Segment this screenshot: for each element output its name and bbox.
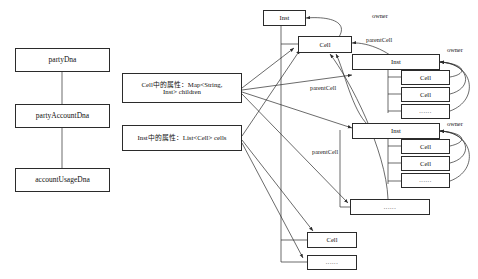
edge-label-parentcell-insta: parentCell (366, 36, 392, 43)
tree-node-inst-a[interactable]: Inst (352, 54, 440, 70)
tree-node-inst-a-cell-more[interactable]: ...... (401, 104, 450, 119)
edge-note-inst-to-root-cell (242, 50, 300, 136)
tree-node-inst-b[interactable]: Inst (352, 123, 440, 139)
edge-label-parentcell-instmore: parentCell (312, 148, 338, 155)
edge-note-inst-to-bottom-more (242, 143, 303, 258)
tree-node-cell-bottom-more[interactable]: ...... (307, 255, 357, 270)
edge-label-owner-root: owner (372, 12, 388, 19)
edge-note-inst-to-bottom-cell (242, 140, 313, 231)
edge-label-owner-instb: owner (447, 120, 463, 127)
tree-node-inst-a-cell-2[interactable]: Cell (401, 87, 450, 102)
tree-node-inst-root[interactable]: Inst (263, 10, 306, 26)
edge-label-owner-insta: owner (447, 46, 463, 53)
dna-node-partydna[interactable]: partyDna (15, 48, 110, 72)
tree-node-inst-a-cell-1[interactable]: Cell (401, 70, 450, 85)
tree-node-inst-b-cell-2[interactable]: Cell (401, 156, 450, 171)
note-inst-attributes[interactable]: Inst中的属性：List<Cell> cells (122, 125, 242, 151)
dna-node-accountusagedna[interactable]: accountUsageDna (15, 168, 110, 192)
tree-node-cell-bottom[interactable]: Cell (307, 232, 357, 248)
diagram-canvas: partyDna partyAccountDna accountUsageDna… (0, 0, 478, 279)
tree-node-cell-root[interactable]: Cell (298, 36, 352, 53)
note-cell-attributes[interactable]: Cell中的属性：Map<String, Inst> children (122, 73, 242, 103)
edge-label-parentcell-instb: parentCell (310, 84, 336, 91)
dna-node-partyaccountdna[interactable]: partyAccountDna (15, 104, 110, 128)
tree-node-inst-b-cell-more[interactable]: ...... (401, 173, 450, 188)
tree-node-inst-more[interactable]: ...... (350, 199, 430, 215)
tree-node-inst-b-cell-1[interactable]: Cell (401, 139, 450, 154)
edge-note-cell-to-root-cell (242, 48, 294, 88)
edge-note-cell-to-instb (242, 92, 352, 128)
